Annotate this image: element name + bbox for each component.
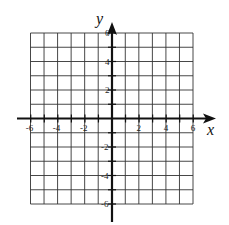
y-axis: [107, 22, 117, 222]
x-tick-label: -4: [53, 123, 61, 133]
x-axis: [17, 114, 216, 124]
coordinate-plane: -6-4-2246 642-2-4-6 x y: [0, 0, 229, 225]
x-tick-label: 4: [164, 123, 169, 133]
x-axis-label: x: [206, 121, 214, 138]
y-tick-label: 2: [105, 85, 110, 95]
x-tick-label: -2: [80, 123, 88, 133]
x-tick-label: -6: [26, 123, 34, 133]
y-tick-label: -6: [101, 199, 109, 209]
x-tick-labels: -6-4-2246: [26, 123, 196, 133]
y-tick-label: 4: [105, 57, 110, 67]
y-tick-label: -2: [101, 142, 109, 152]
y-tick-label: -4: [101, 171, 109, 181]
y-axis-label: y: [94, 10, 104, 28]
x-tick-label: 2: [137, 123, 142, 133]
x-tick-label: 6: [191, 123, 196, 133]
y-tick-label: 6: [105, 28, 110, 38]
